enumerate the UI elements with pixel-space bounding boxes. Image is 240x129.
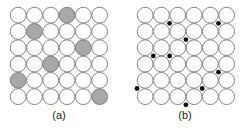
host-atom <box>75 72 91 88</box>
host-atom <box>219 40 235 56</box>
substitutional-atom <box>27 24 43 40</box>
panel-b-label: (b) <box>178 109 191 121</box>
interstitial-atom <box>135 86 140 91</box>
host-atom <box>219 56 235 72</box>
host-atom <box>43 7 59 23</box>
host-atom <box>43 40 59 56</box>
host-atom <box>170 72 186 88</box>
host-atom <box>27 7 43 23</box>
host-atom <box>219 89 235 105</box>
interstitial-atom <box>167 21 172 26</box>
panel-b-interstitial-lattice <box>135 7 235 107</box>
host-atom <box>154 56 170 72</box>
host-atom <box>170 7 186 23</box>
host-atom <box>137 56 153 72</box>
host-atom <box>202 24 218 40</box>
host-atom <box>154 72 170 88</box>
host-atom <box>75 89 91 105</box>
interstitial-atom <box>184 37 189 42</box>
host-atom <box>43 72 59 88</box>
host-atom <box>137 40 153 56</box>
host-atom <box>154 40 170 56</box>
host-atom <box>170 89 186 105</box>
host-atom <box>92 7 108 23</box>
panel-a-substitutional-lattice <box>10 7 107 104</box>
host-atom <box>154 24 170 40</box>
host-atom <box>154 89 170 105</box>
host-atom <box>137 7 153 23</box>
host-atom <box>92 56 108 72</box>
substitutional-atom <box>59 7 75 23</box>
host-atom <box>10 56 26 72</box>
interstitial-atom <box>184 102 189 107</box>
host-atom <box>43 24 59 40</box>
host-atom <box>59 24 75 40</box>
host-atom <box>92 24 108 40</box>
host-atom <box>154 7 170 23</box>
host-atom <box>27 89 43 105</box>
interstitial-atom <box>151 54 156 59</box>
host-atom <box>186 24 202 40</box>
host-atom <box>202 7 218 23</box>
host-atom <box>202 40 218 56</box>
host-atom <box>202 56 218 72</box>
host-atom <box>186 72 202 88</box>
interstitial-atom <box>200 86 205 91</box>
interstitial-atom <box>216 21 221 26</box>
host-atom <box>202 89 218 105</box>
host-atom <box>92 72 108 88</box>
host-atom <box>10 24 26 40</box>
host-atom <box>59 72 75 88</box>
host-atom <box>59 40 75 56</box>
host-atom <box>170 56 186 72</box>
host-atom <box>10 89 26 105</box>
host-atom <box>75 24 91 40</box>
host-atom <box>27 72 43 88</box>
interstitial-atom <box>167 54 172 59</box>
interstitial-atom <box>216 70 221 75</box>
host-atom <box>186 89 202 105</box>
host-atom <box>170 24 186 40</box>
host-atom <box>10 40 26 56</box>
host-atom <box>137 24 153 40</box>
host-atom <box>27 40 43 56</box>
substitutional-atom <box>43 56 59 72</box>
lattice-figure: (a) (b) <box>0 0 240 129</box>
host-atom <box>43 89 59 105</box>
host-atom <box>137 89 153 105</box>
host-atom <box>219 24 235 40</box>
host-atom <box>59 89 75 105</box>
host-atom <box>10 7 26 23</box>
panel-a-label: (a) <box>52 109 65 121</box>
substitutional-atom <box>92 89 108 105</box>
host-atom <box>186 7 202 23</box>
host-atom <box>92 40 108 56</box>
host-atom <box>75 7 91 23</box>
substitutional-atom <box>75 40 91 56</box>
host-atom <box>75 56 91 72</box>
host-atom <box>170 40 186 56</box>
host-atom <box>59 56 75 72</box>
host-atom <box>219 72 235 88</box>
substitutional-atom <box>10 72 26 88</box>
host-atom <box>186 56 202 72</box>
host-atom <box>137 72 153 88</box>
host-atom <box>27 56 43 72</box>
host-atom <box>219 7 235 23</box>
host-atom <box>186 40 202 56</box>
host-atom <box>202 72 218 88</box>
